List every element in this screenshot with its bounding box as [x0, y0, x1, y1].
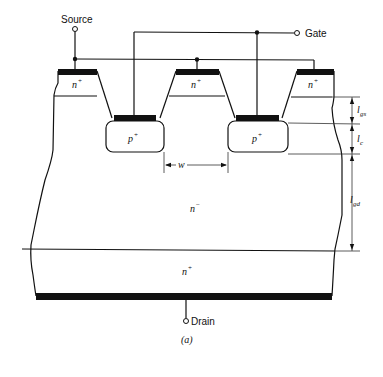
svg-text:gs: gs [360, 110, 367, 118]
svg-text:n: n [191, 79, 196, 90]
device-right-edge [332, 71, 342, 296]
svg-text:p: p [251, 133, 257, 144]
trench-wall [160, 71, 176, 118]
svg-text:+: + [258, 131, 262, 139]
region-label-n-minus: n − [190, 201, 200, 214]
dimension-label-lgs: l gs [357, 104, 367, 118]
region-label-p-plus-right: p + [251, 131, 262, 144]
dimension-label-lc: l c [357, 133, 364, 147]
w-arrowhead [165, 163, 171, 167]
source-bus [75, 59, 314, 60]
svg-text:+: + [78, 77, 82, 85]
region-label-n-plus-left: n + [72, 77, 82, 90]
trench-wall [282, 71, 297, 118]
device-left-edge [31, 71, 58, 296]
trench-wall [219, 71, 235, 118]
gate-bus [134, 32, 294, 33]
svg-text:+: + [314, 77, 318, 85]
svg-text:n: n [308, 79, 313, 90]
region-label-p-plus-left: p + [127, 131, 138, 144]
drain-terminal-icon [184, 319, 189, 324]
svg-text:+: + [134, 131, 138, 139]
region-label-n-plus-substrate: n + [182, 264, 192, 277]
source-contact-left [58, 69, 97, 75]
svg-text:+: + [197, 77, 201, 85]
drain-contact [36, 293, 332, 300]
source-terminal-icon [73, 27, 78, 32]
region-label-n-plus-right: n + [308, 77, 318, 90]
svg-text:−: − [196, 201, 200, 209]
svg-text:n: n [72, 79, 77, 90]
source-label: Source [61, 14, 93, 25]
drift-substrate-boundary [22, 249, 335, 251]
gate-contact-left [114, 115, 156, 121]
svg-text:+: + [188, 264, 192, 272]
region-label-n-plus-mid: n + [191, 77, 201, 90]
svg-text:c: c [360, 139, 364, 147]
gate-contact-right [236, 115, 279, 121]
drain-label: Drain [191, 316, 215, 327]
dimension-label-lgd: l gd [350, 194, 361, 208]
svg-text:p: p [127, 133, 133, 144]
svg-text:n: n [182, 266, 187, 277]
source-contact-right [297, 69, 334, 75]
source-contact-mid [176, 69, 219, 75]
w-arrowhead [221, 163, 227, 167]
trench-wall [97, 71, 112, 118]
dim-ref-line [288, 123, 360, 124]
svg-text:gd: gd [353, 200, 361, 208]
gate-terminal-icon [295, 31, 300, 36]
dimension-label-w: w [178, 159, 185, 170]
static-induction-transistor-diagram: Source Gate Drain (a) n + n + n + p + p … [0, 0, 383, 377]
gate-label: Gate [305, 28, 327, 39]
svg-text:n: n [190, 203, 195, 214]
figure-caption: (a) [181, 334, 193, 346]
